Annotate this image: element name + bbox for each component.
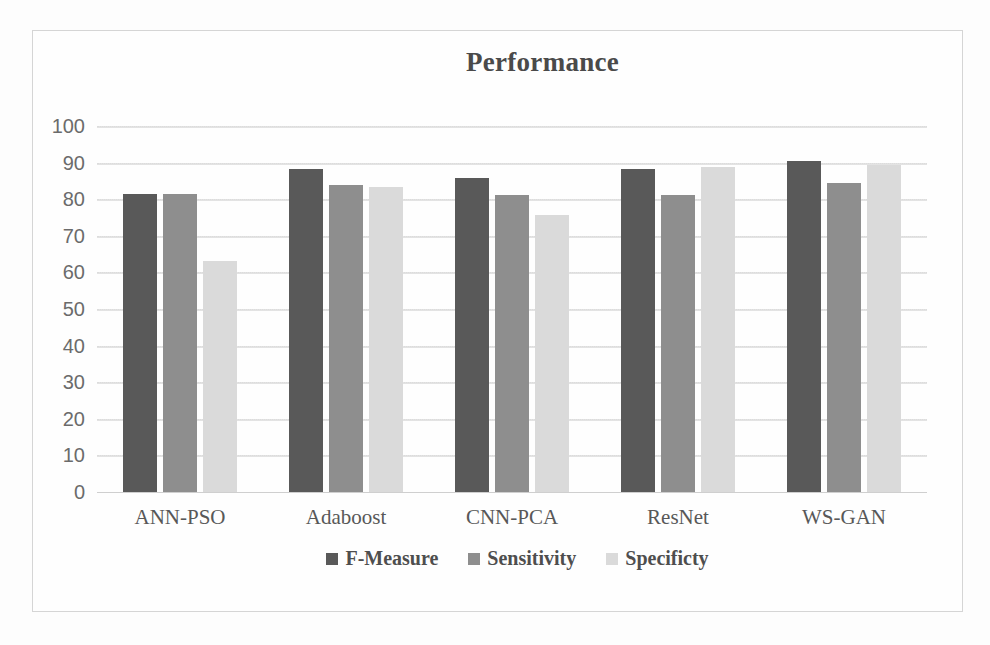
x-axis-tick-label: Adaboost [263, 505, 429, 530]
bars [97, 126, 263, 492]
chart-title: Performance [33, 47, 962, 78]
bar-f-measure-ann-pso[interactable] [123, 194, 157, 492]
bar-sensitivity-resnet[interactable] [661, 195, 695, 492]
bar-specificty-resnet[interactable] [701, 167, 735, 492]
bars [263, 126, 429, 492]
bar-specificty-ann-pso[interactable] [203, 261, 237, 492]
bar-groups: ANN-PSOAdaboostCNN-PCAResNetWS-GAN [97, 126, 927, 492]
x-axis-tick-label: ANN-PSO [97, 505, 263, 530]
chart-legend: F-MeasureSensitivitySpecificty [33, 547, 962, 570]
bar-f-measure-cnn-pca[interactable] [455, 178, 489, 492]
bar-f-measure-adaboost[interactable] [289, 169, 323, 492]
y-axis-tick-label: 0 [74, 481, 85, 504]
x-axis-tick-label: WS-GAN [761, 505, 927, 530]
legend-item-specificty[interactable]: Specificty [606, 547, 708, 570]
page-background: Performance 1009080706050403020100 ANN-P… [0, 0, 990, 645]
bar-group-ws-gan: WS-GAN [761, 126, 927, 492]
y-axis-tick-label: 90 [63, 151, 85, 174]
legend-label: Sensitivity [487, 547, 576, 570]
y-axis-tick-label: 40 [63, 334, 85, 357]
bar-group-ann-pso: ANN-PSO [97, 126, 263, 492]
bar-sensitivity-ws-gan[interactable] [827, 183, 861, 492]
bar-f-measure-resnet[interactable] [621, 169, 655, 492]
y-axis-tick-label: 70 [63, 224, 85, 247]
legend-item-f-measure[interactable]: F-Measure [326, 547, 438, 570]
plot-area: 1009080706050403020100 ANN-PSOAdaboostCN… [97, 126, 927, 492]
y-axis-tick-label: 100 [52, 115, 85, 138]
bar-group-cnn-pca: CNN-PCA [429, 126, 595, 492]
y-axis-tick-label: 30 [63, 371, 85, 394]
bar-sensitivity-cnn-pca[interactable] [495, 195, 529, 492]
y-axis-tick-label: 10 [63, 444, 85, 467]
bar-sensitivity-adaboost[interactable] [329, 185, 363, 492]
legend-swatch-icon [606, 553, 618, 565]
bar-group-adaboost: Adaboost [263, 126, 429, 492]
legend-label: Specificty [625, 547, 708, 570]
bars [761, 126, 927, 492]
bar-sensitivity-ann-pso[interactable] [163, 194, 197, 492]
chart-area: Performance 1009080706050403020100 ANN-P… [32, 30, 963, 612]
x-axis-tick-label: CNN-PCA [429, 505, 595, 530]
legend-swatch-icon [326, 553, 338, 565]
bar-specificty-cnn-pca[interactable] [535, 215, 569, 492]
legend-label: F-Measure [345, 547, 438, 570]
bar-f-measure-ws-gan[interactable] [787, 161, 821, 492]
bar-group-resnet: ResNet [595, 126, 761, 492]
bar-specificty-ws-gan[interactable] [867, 165, 901, 492]
y-axis-tick-label: 50 [63, 298, 85, 321]
y-axis-tick-label: 80 [63, 188, 85, 211]
bar-specificty-adaboost[interactable] [369, 187, 403, 492]
legend-item-sensitivity[interactable]: Sensitivity [468, 547, 576, 570]
bars [429, 126, 595, 492]
y-axis-tick-label: 20 [63, 407, 85, 430]
gridline [97, 492, 927, 493]
x-axis-tick-label: ResNet [595, 505, 761, 530]
bars [595, 126, 761, 492]
legend-swatch-icon [468, 553, 480, 565]
y-axis-tick-label: 60 [63, 261, 85, 284]
